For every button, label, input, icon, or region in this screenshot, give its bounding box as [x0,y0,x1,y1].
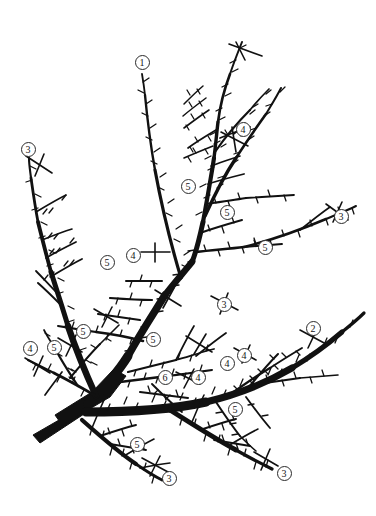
branch-order-label: 3 [21,142,36,157]
branch-order-label: 3 [334,209,349,224]
branch-order-label: 3 [217,297,232,312]
branch-order-label: 4 [126,248,141,263]
branch-drawing-canvas [0,0,376,516]
branch-order-label: 6 [158,370,173,385]
branch-order-label: 4 [191,370,206,385]
branch-order-label: 5 [76,324,91,339]
branch-order-label: 4 [236,122,251,137]
branch-order-label: 2 [306,321,321,336]
branch-order-label: 4 [220,356,235,371]
branch-order-label: 5 [100,255,115,270]
branch-order-label: 5 [258,240,273,255]
branch-order-label: 5 [130,437,145,452]
branch-order-label: 5 [220,205,235,220]
branch-order-label: 3 [162,471,177,486]
branch-order-label: 3 [277,466,292,481]
branch-order-label: 1 [135,55,150,70]
branch-order-label: 5 [146,332,161,347]
branch-order-label: 4 [23,341,38,356]
branch-order-label: 4 [237,348,252,363]
branch-order-label: 5 [228,402,243,417]
branch-order-label: 5 [181,179,196,194]
branch-order-label: 5 [47,340,62,355]
branch-diagram-figure: 14355354532554544645533 [0,0,376,516]
